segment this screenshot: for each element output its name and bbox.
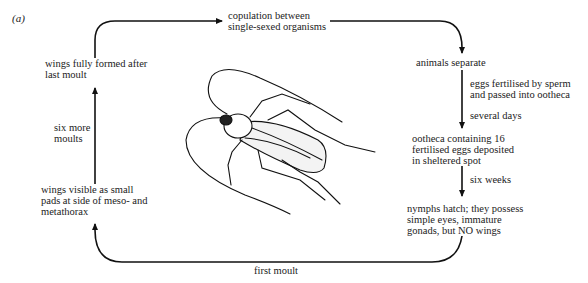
- stage-text: copulation between: [228, 10, 326, 21]
- stage-text: ootheca containing 16: [412, 133, 514, 144]
- transition-several-days: several days: [470, 110, 522, 121]
- stage-text: pads at side of meso- and: [41, 195, 147, 206]
- transition-six-weeks: six weeks: [470, 174, 511, 185]
- transition-text: six more: [54, 122, 90, 133]
- transition-fertilise: eggs fertilised by sperm and passed into…: [470, 78, 571, 100]
- stage-copulation: copulation between single-sexed organism…: [228, 10, 326, 32]
- arrow-to-separate: [330, 21, 462, 53]
- transition-first-moult: first moult: [254, 265, 298, 276]
- transition-text: moults: [54, 133, 90, 144]
- stage-text: gonads, but NO wings: [407, 225, 523, 236]
- stage-text: metathorax: [41, 206, 147, 217]
- stage-ootheca: ootheca containing 16 fertilised eggs de…: [412, 133, 514, 166]
- stage-text: in sheltered spot: [412, 155, 514, 166]
- arrow-to-copulation: [95, 21, 222, 58]
- stage-text: wings visible as small: [41, 184, 147, 195]
- transition-text: several days: [470, 110, 522, 121]
- stage-text: wings fully formed after: [45, 58, 147, 69]
- cockroach-illustration: [186, 69, 375, 214]
- stage-text: single-sexed organisms: [228, 21, 326, 32]
- stage-text: last moult: [45, 69, 147, 80]
- transition-text: first moult: [254, 265, 298, 276]
- stage-wings-visible: wings visible as small pads at side of m…: [41, 184, 147, 217]
- transition-six-more-moults: six more moults: [54, 122, 90, 144]
- stage-text: nymphs hatch; they possess: [407, 203, 523, 214]
- transition-text: eggs fertilised by sperm: [470, 78, 571, 89]
- stage-wings-formed: wings fully formed after last moult: [45, 58, 147, 80]
- transition-text: six weeks: [470, 174, 511, 185]
- stage-text: fertilised eggs deposited: [412, 144, 514, 155]
- stage-text: animals separate: [416, 57, 486, 68]
- stage-nymphs: nymphs hatch; they possess simple eyes, …: [407, 203, 523, 236]
- stage-separate: animals separate: [416, 57, 486, 68]
- stage-text: simple eyes, immature: [407, 214, 523, 225]
- transition-text: and passed into ootheca: [470, 89, 571, 100]
